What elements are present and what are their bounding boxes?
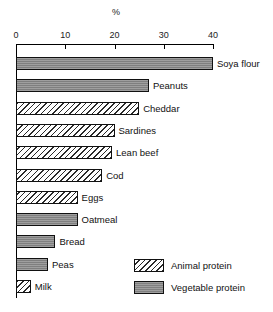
bar-label: Eggs [82,191,104,204]
bar-row: Eggs [16,191,273,204]
protein-content-bar-chart: % 010203040 Soya flourPeanutsCheddarSard… [0,0,273,312]
bar-label: Bread [59,235,84,248]
bar-label: Cheddar [143,102,179,115]
legend-label: Animal protein [171,259,232,272]
bar-label: Peas [52,258,74,271]
bar-row: Peanuts [16,79,273,92]
legend-item-animal: Animal protein [134,259,269,272]
bar-milk [16,280,31,293]
bar-row: Lean beef [16,146,273,159]
legend-swatch-vegetable [134,281,164,294]
bar-oatmeal [16,213,78,226]
bar-label: Lean beef [116,146,158,159]
bar-row: Cheddar [16,102,273,115]
bar-lean-beef [16,146,112,159]
bar-label: Cod [106,169,123,182]
bar-peas [16,258,48,271]
bar-row: Oatmeal [16,213,273,226]
bar-row: Sardines [16,124,273,137]
legend-swatch-animal [134,259,164,272]
bar-cheddar [16,102,139,115]
bar-label: Sardines [119,124,157,137]
bar-cod [16,169,102,182]
bar-label: Oatmeal [82,213,118,226]
bar-label: Soya flour [217,57,260,70]
legend-item-vegetable: Vegetable protein [134,281,269,294]
bar-row: Bread [16,235,273,248]
legend-label: Vegetable protein [171,281,245,294]
bar-peanuts [16,79,149,92]
bar-soya-flour [16,57,213,70]
bar-label: Peanuts [153,79,188,92]
bar-label: Milk [35,280,52,293]
bar-row: Cod [16,169,273,182]
bar-row: Soya flour [16,57,273,70]
bar-eggs [16,191,78,204]
bar-bread [16,235,55,248]
bar-sardines [16,124,115,137]
